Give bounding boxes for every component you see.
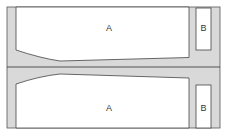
top-b-label: B (200, 23, 206, 33)
bottom-b-label: B (200, 103, 206, 113)
diagram-canvas: A B A B (0, 0, 225, 133)
top-a-label: A (106, 23, 112, 33)
top-region-a (16, 7, 189, 61)
bottom-a-label: A (106, 103, 112, 113)
bottom-region-a (16, 74, 189, 128)
